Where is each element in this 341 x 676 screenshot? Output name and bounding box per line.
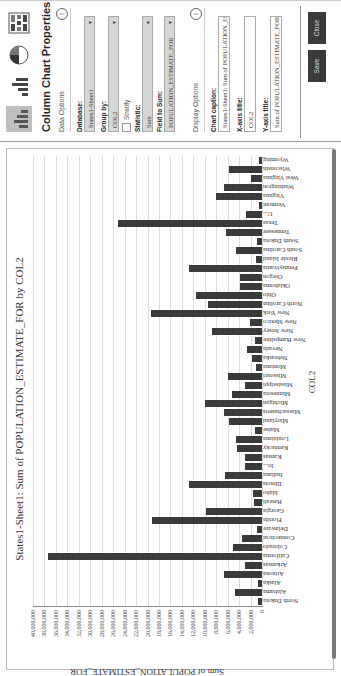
bar[interactable]: [259, 202, 262, 208]
bar[interactable]: [226, 229, 262, 235]
bar-slot: Missouri: [33, 372, 262, 381]
bar[interactable]: [224, 571, 262, 577]
xaxis-title-label: X-axis title:: [236, 97, 243, 132]
bar[interactable]: [196, 292, 262, 298]
bar[interactable]: [256, 364, 262, 370]
bar[interactable]: [246, 211, 262, 217]
bar[interactable]: [216, 193, 262, 199]
bar[interactable]: [251, 175, 262, 181]
column-chart-icon[interactable]: [6, 106, 32, 132]
bar-slot: Oklahoma: [33, 282, 262, 291]
statistic-value: Sum: [145, 116, 152, 128]
yaxis-title-label: Y-axis title:: [262, 98, 269, 132]
bar[interactable]: [255, 427, 262, 433]
x-tick-label: Indiana: [263, 472, 283, 479]
bar[interactable]: [252, 355, 262, 361]
collapse-icon[interactable]: ↑: [56, 8, 68, 20]
horizontal-scrollbar[interactable]: [332, 149, 336, 659]
collapse-icon[interactable]: ↑: [190, 8, 202, 20]
database-select[interactable]: States1-Sheet1 ▼: [84, 16, 95, 132]
bar-slot: Ohio: [33, 291, 262, 300]
bar[interactable]: [48, 553, 262, 559]
bar[interactable]: [224, 409, 262, 415]
stratify-checkbox[interactable]: [122, 123, 131, 132]
groupby-select[interactable]: COL2 ▼: [108, 16, 119, 132]
x-tick-label: U...: [263, 211, 273, 218]
bar[interactable]: [229, 166, 262, 172]
panel-divider[interactable]: [0, 141, 341, 142]
x-tick-label: Io...: [263, 463, 273, 470]
bar-slot: North Carolina: [33, 300, 262, 309]
save-button[interactable]: Save: [308, 50, 326, 82]
caption-input[interactable]: States1-Sheet1: Sum of POPULATION_ESTIMA…: [218, 16, 230, 132]
pie-chart-icon[interactable]: [6, 42, 32, 68]
y-tick-label: 18,000,000: [156, 610, 162, 637]
bar[interactable]: [240, 274, 262, 280]
bar[interactable]: [224, 184, 262, 190]
chart-title: States1-Sheet1: Sum of POPULATION_ESTIMA…: [13, 149, 25, 669]
x-tick-label: Connecticut: [263, 535, 294, 542]
y-tick-label: 36,000,000: [53, 610, 59, 637]
bar-slot: California: [33, 552, 262, 561]
x-tick-label: Missouri: [263, 373, 286, 380]
bar[interactable]: [242, 535, 262, 541]
bar[interactable]: [258, 580, 262, 586]
bar[interactable]: [189, 265, 262, 271]
bar[interactable]: [256, 256, 262, 262]
bar[interactable]: [206, 508, 262, 514]
xaxis-title-input[interactable]: COL2: [244, 16, 256, 132]
bar[interactable]: [237, 445, 262, 451]
bar-slot: Io...: [33, 462, 262, 471]
bar[interactable]: [151, 310, 262, 316]
bar[interactable]: [235, 589, 262, 595]
bar[interactable]: [208, 301, 262, 307]
bar[interactable]: [259, 157, 262, 163]
bar-slot: Kansas: [33, 453, 262, 462]
bar[interactable]: [257, 526, 262, 532]
x-tick-label: New Mexico: [263, 319, 297, 326]
field-select[interactable]: POPULATION_ESTIMATE_FOR ▼: [164, 16, 175, 132]
yaxis-title-input[interactable]: Sum of POPULATION_ESTIMATE_FOR: [270, 16, 282, 132]
bar-slot: Virginia: [33, 192, 262, 201]
bar-chart-icon[interactable]: [6, 74, 32, 100]
section-divider: [70, 8, 71, 132]
bar[interactable]: [228, 373, 262, 379]
bar[interactable]: [189, 481, 262, 487]
y-tick-label: 6,000,000: [225, 610, 231, 634]
x-tick-label: New Jersey: [263, 328, 293, 335]
bar[interactable]: [245, 463, 262, 469]
bar[interactable]: [250, 319, 262, 325]
bar[interactable]: [118, 220, 262, 226]
bar-slot: Tennessee: [33, 228, 262, 237]
bar[interactable]: [229, 418, 262, 424]
x-tick-label: Kentucky: [263, 445, 288, 452]
bar[interactable]: [247, 346, 262, 352]
bar-slot: Florida: [33, 516, 262, 525]
x-tick-label: South Carolina: [263, 247, 302, 254]
bar[interactable]: [240, 283, 262, 289]
bar[interactable]: [245, 382, 262, 388]
close-button[interactable]: Close: [308, 12, 326, 44]
bar[interactable]: [245, 454, 262, 460]
bar[interactable]: [205, 400, 262, 406]
x-tick-label: Maryland: [263, 418, 288, 425]
bar[interactable]: [232, 391, 262, 397]
bar[interactable]: [257, 238, 262, 244]
bar[interactable]: [236, 247, 262, 253]
bar[interactable]: [236, 436, 262, 442]
bar-slot: Wyoming: [33, 156, 262, 165]
bar[interactable]: [255, 337, 262, 343]
bar[interactable]: [233, 544, 262, 550]
bar[interactable]: [254, 499, 262, 505]
stratify-option[interactable]: Stratify: [122, 100, 131, 132]
grid-chart-icon[interactable]: [6, 10, 32, 36]
bar[interactable]: [245, 562, 262, 568]
bar[interactable]: [258, 598, 262, 604]
bar[interactable]: [225, 472, 262, 478]
bar[interactable]: [212, 328, 262, 334]
bar-slot: New Mexico: [33, 318, 262, 327]
statistic-select[interactable]: Sum ▼: [142, 16, 153, 132]
bar[interactable]: [152, 517, 262, 523]
x-tick-label: Alaska: [263, 580, 281, 587]
bar[interactable]: [253, 490, 262, 496]
